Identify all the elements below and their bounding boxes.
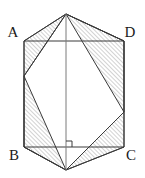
geometry-figure: A D B C bbox=[0, 0, 145, 178]
vertex-label-b: B bbox=[9, 147, 19, 163]
vertex-label-d: D bbox=[125, 24, 136, 40]
geometry-canvas: A D B C bbox=[0, 0, 145, 178]
vertex-label-a: A bbox=[8, 24, 19, 40]
vertex-label-c: C bbox=[126, 147, 136, 163]
right-angle-marker-icon bbox=[66, 141, 72, 147]
